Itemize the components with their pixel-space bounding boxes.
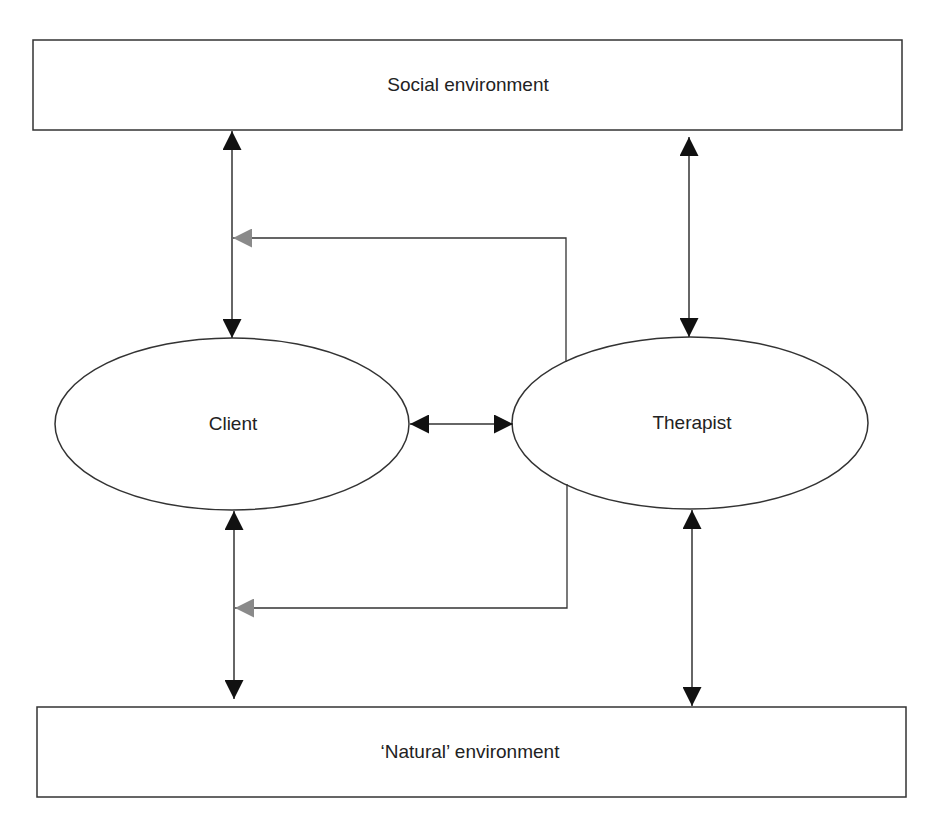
therapist-label: Therapist: [652, 412, 731, 434]
social-environment-label: Social environment: [387, 74, 549, 96]
diagram-canvas: [0, 0, 939, 834]
natural-environment-label: ‘Natural’ environment: [381, 741, 560, 763]
client-label: Client: [209, 413, 258, 435]
